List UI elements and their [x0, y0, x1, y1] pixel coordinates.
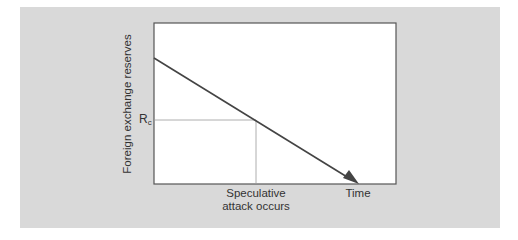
x-axis-label: Time: [345, 187, 370, 199]
rc-main: R: [139, 112, 148, 126]
rc-label: Rc: [139, 112, 152, 127]
attack-label-line2: attack occurs: [222, 200, 290, 213]
y-axis-label: Foreign exchange reserves: [121, 34, 133, 173]
attack-label-line1: Speculative: [222, 187, 290, 200]
rc-subscript: c: [148, 118, 152, 127]
plot-box: [154, 23, 396, 184]
attack-label: Speculative attack occurs: [222, 187, 290, 213]
